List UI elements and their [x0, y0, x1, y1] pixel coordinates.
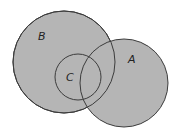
set-a-label: A: [127, 53, 136, 66]
set-a-circle: [80, 39, 168, 127]
set-b-label: B: [38, 30, 46, 43]
venn-diagram: B A C: [0, 0, 175, 130]
set-c-label: C: [66, 71, 74, 84]
